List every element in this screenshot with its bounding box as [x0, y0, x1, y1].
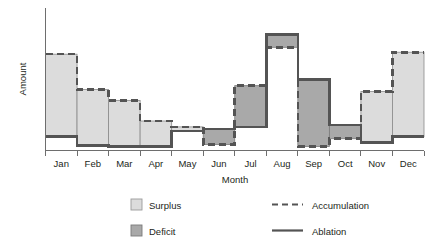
x-axis-tick-labels: JanFebMarAprMayJunJulAugSepOctNovDec [54, 158, 417, 169]
bar-jul-deficit [235, 86, 267, 127]
y-axis-title: Amount [17, 62, 28, 95]
x-tick-label-jul: Jul [244, 158, 256, 169]
x-tick-label-may: May [178, 158, 196, 169]
bar-jan-surplus [46, 54, 78, 137]
x-axis-ticks [46, 151, 425, 156]
bar-dec-surplus [392, 52, 424, 137]
x-tick-label-feb: Feb [85, 158, 101, 169]
x-tick-label-aug: Aug [274, 158, 291, 169]
x-tick-label-dec: Dec [400, 158, 417, 169]
x-tick-label-apr: Apr [149, 158, 164, 169]
legend-label-surplus: Surplus [149, 200, 181, 211]
mass-balance-chart: JanFebMarAprMayJunJulAugSepOctNovDec Mon… [0, 0, 437, 251]
bar-apr-surplus [140, 121, 172, 147]
bar-mar-surplus [109, 100, 141, 146]
x-tick-label-nov: Nov [368, 158, 385, 169]
x-tick-label-oct: Oct [338, 158, 353, 169]
legend-label-ablation: Ablation [312, 226, 346, 237]
legend-label-accumulation: Accumulation [312, 200, 369, 211]
bar-feb-surplus [77, 90, 109, 146]
x-tick-label-jun: Jun [211, 158, 226, 169]
chart-legend: Surplus Deficit Accumulation Ablation [131, 199, 369, 237]
bar-sep-deficit [298, 80, 330, 147]
legend-label-deficit: Deficit [149, 226, 176, 237]
x-tick-label-jan: Jan [54, 158, 69, 169]
chart-container: JanFebMarAprMayJunJulAugSepOctNovDec Mon… [0, 0, 437, 251]
x-axis-title: Month [222, 174, 248, 185]
bar-aug-deficit [266, 35, 298, 48]
bar-jun-deficit [203, 129, 235, 145]
bar-oct-deficit [329, 125, 361, 139]
x-tick-label-mar: Mar [116, 158, 132, 169]
legend-swatch-surplus [131, 199, 142, 210]
legend-swatch-deficit [131, 225, 142, 236]
x-tick-label-sep: Sep [305, 158, 322, 169]
bar-nov-surplus [361, 92, 393, 143]
